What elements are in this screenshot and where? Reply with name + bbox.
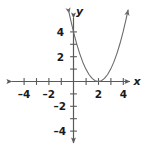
parabola-graph-figure: –4 –2 2 4 x 4 2 –2 –4 y xyxy=(0,0,146,147)
x-axis: –4 –2 2 4 x xyxy=(12,75,141,100)
coordinate-plane-svg: –4 –2 2 4 x 4 2 –2 –4 y xyxy=(0,0,146,147)
x-tick-label-2: 2 xyxy=(95,88,102,100)
y-axis: 4 2 –2 –4 y xyxy=(53,5,84,143)
y-tick-label--4: –4 xyxy=(53,125,66,137)
y-tick-label--2: –2 xyxy=(53,100,66,112)
y-tick-label-4: 4 xyxy=(57,26,64,38)
parabola-curve xyxy=(69,10,128,81)
y-axis-label: y xyxy=(76,5,84,18)
x-tick-label--4: –4 xyxy=(18,88,31,100)
y-tick-label-2: 2 xyxy=(57,51,64,63)
x-tick-label--2: –2 xyxy=(43,88,56,100)
x-axis-label: x xyxy=(132,75,141,88)
x-tick-label-4: 4 xyxy=(120,88,127,100)
